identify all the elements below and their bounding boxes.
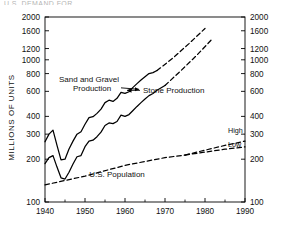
y-tick-label-left: 1000 — [22, 56, 41, 65]
stone-production-label: Stone Production — [143, 86, 204, 95]
population-low-label: Low — [228, 140, 242, 149]
y-tick-label-left: 100 — [26, 198, 40, 207]
y-tick-label-left: 400 — [26, 112, 40, 121]
y-tick-label-right: 1200 — [250, 45, 269, 54]
y-tick-label-right: 800 — [250, 70, 264, 79]
population-high-label: High — [228, 126, 243, 135]
y-tick-label-left: 300 — [26, 130, 40, 139]
x-tick-label: 1950 — [76, 207, 95, 216]
x-tick-label: 1970 — [156, 207, 175, 216]
y-tick-label-left: 1600 — [22, 27, 41, 36]
y-tick-label-right: 1600 — [250, 27, 269, 36]
y-tick-label-right: 600 — [250, 87, 264, 96]
y-tick-label-left: 2000 — [22, 13, 41, 22]
y-tick-label-right: 100 — [250, 198, 264, 207]
sand-and-gravel-label-line2: Production — [73, 84, 111, 93]
x-tick-label: 1980 — [196, 207, 215, 216]
y-axis-title: MILLIONS OF UNITS — [7, 74, 16, 160]
y-tick-label-left: 600 — [26, 87, 40, 96]
series-sand-and-gravel-production-projected — [157, 29, 205, 71]
y-tick-label-right: 200 — [250, 155, 264, 164]
x-tick-label: 1940 — [36, 207, 55, 216]
us-population-label: U.S. Population — [89, 170, 145, 179]
series-stone-production-projected — [165, 38, 213, 85]
y-tick-label-right: 300 — [250, 130, 264, 139]
y-tick-label-left: 200 — [26, 155, 40, 164]
chart-figure: U.S. DEMAND FOR 100200300400600800100012… — [0, 0, 289, 228]
x-tick-label: 1990 — [236, 207, 255, 216]
series-stone-production — [45, 85, 165, 179]
x-tick-label: 1960 — [116, 207, 135, 216]
plot-frame — [45, 17, 245, 202]
y-tick-label-right: 400 — [250, 112, 264, 121]
y-tick-label-left: 1200 — [22, 45, 41, 54]
production-vs-population-line-chart: 1002003004006008001000120016002000100200… — [0, 0, 289, 228]
sand-and-gravel-label-line1: Sand and Gravel — [59, 75, 119, 84]
y-tick-label-right: 1000 — [250, 56, 269, 65]
y-tick-label-right: 2000 — [250, 13, 269, 22]
y-tick-label-left: 800 — [26, 70, 40, 79]
